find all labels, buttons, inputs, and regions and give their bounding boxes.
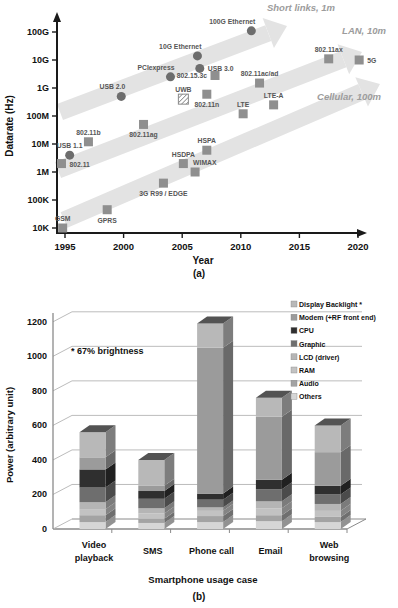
y-tick-label: 200 [32, 489, 47, 499]
bar-segment-phone-call-others [197, 522, 223, 529]
legend-item-audio: Audio [291, 380, 319, 387]
legend-label: Others [299, 393, 322, 400]
bar-segment-phone-call-lcd-driver- [197, 507, 223, 510]
point-label: PCIexpress [137, 64, 174, 72]
bar-segment-email-lcd-driver- [256, 501, 282, 508]
y-tick-label: 1200 [27, 317, 47, 327]
category-label: Web [320, 540, 339, 550]
bar-segment-phone-call-audio [197, 516, 223, 522]
bar-segment-sms-display-backlight [138, 460, 164, 486]
x-axis-title: Smartphone usage case [148, 574, 257, 585]
point-label: 802.11b [76, 129, 101, 136]
legend-swatch [291, 301, 297, 307]
bar-segment-email-graphic [256, 489, 282, 501]
point-label: 3G R99 / EDGE [139, 190, 188, 197]
bar-segment-web-browsing-ram [315, 511, 341, 517]
legend-label: Display Backlight * [299, 301, 362, 309]
x-tick-label: 2010 [230, 241, 251, 252]
x-tick-label: 2020 [347, 241, 368, 252]
bar-segment-web-browsing-others [315, 522, 341, 529]
y-tick-label: 1M [36, 167, 49, 177]
bar-segment-video-playback-graphic [80, 488, 106, 503]
bar-segment-phone-call-modem-rf-front-end- [197, 348, 223, 494]
point-usb-2-0 [117, 92, 126, 101]
bar-segment-web-browsing-audio [315, 517, 341, 522]
bar-segment-sms-graphic [138, 499, 164, 508]
bar-segment-email-modem-rf-front-end- [256, 417, 282, 480]
bar-segment-video-playback-audio [80, 515, 106, 522]
point-label: 802.15.3c [177, 72, 207, 79]
bar-segment-sms-ram [138, 513, 164, 518]
bar-segment-phone-call-ram [197, 511, 223, 516]
y-tick-label: 100M [26, 111, 49, 121]
category-label: Phone call [189, 546, 234, 556]
y-tick-label: 100G [27, 27, 49, 37]
legend-swatch [291, 380, 297, 386]
point-wimax [191, 168, 200, 177]
point-label: LTE [237, 101, 250, 108]
legend-swatch [291, 367, 297, 373]
point-pciexpress [166, 72, 175, 81]
trend-band-label: Cellular, 100m [317, 91, 381, 102]
bar-segment-web-browsing-cpu [315, 486, 341, 495]
point-uwb [178, 94, 188, 104]
bar-segment-web-browsing-display-backlight [315, 425, 341, 452]
y-tick-label: 10K [32, 223, 49, 233]
point-100g-ethernet [247, 26, 256, 35]
legend-label: CPU [299, 327, 314, 334]
legend-label: LCD (driver) [299, 354, 339, 362]
bar-segment-email-audio [256, 515, 282, 521]
point-802-11ac-ad [255, 79, 264, 88]
legend-swatch [291, 327, 297, 333]
point-802-11 [57, 159, 66, 168]
y-axis-title: Datarate (Hz) [4, 95, 15, 157]
point-5g [355, 56, 364, 65]
bar-segment-email-others [256, 521, 282, 529]
legend-swatch [291, 393, 297, 399]
y-tick-label: 1000 [27, 351, 47, 361]
trend-band-label: LAN, 10m [342, 25, 386, 36]
y-axis-arrowhead [53, 12, 61, 22]
point-label: 802.11ax [315, 46, 343, 53]
bar-segment-video-playback-modem-rf-front-end- [80, 457, 106, 469]
brightness-annotation: * 67% brightness [71, 346, 144, 356]
point-label: GSM [55, 215, 71, 222]
bar-segment-sms-lcd-driver- [138, 508, 164, 513]
bar-segment-video-playback-ram [80, 509, 106, 515]
category-label: SMS [143, 546, 163, 556]
power-stacked-bar-chart: 020040060080010001200VideoplaybackSMSPho… [0, 285, 398, 608]
x-tick-label: 2015 [289, 241, 311, 252]
point-hsdpa [179, 159, 188, 168]
point-label: 10G Ethernet [159, 43, 202, 50]
legend-label: Audio [299, 380, 319, 387]
point-label: USB 2.0 [100, 83, 126, 90]
y-tick-label: 10G [32, 55, 49, 65]
bar-segment-sms-others [138, 523, 164, 529]
bar-segment-video-playback-others [80, 522, 106, 529]
legend-label: Modem (+RF front end) [299, 314, 376, 322]
bar-segment-phone-call-display-backlight [197, 324, 223, 348]
y-tick-label: 800 [32, 386, 47, 396]
point-802-11n [202, 90, 211, 99]
point-label: 802.11ag [129, 131, 157, 139]
datarate-scatter-chart: Short links, 1mLAN, 10mCellular, 100m 10… [0, 0, 398, 266]
x-tick-label: 2000 [113, 241, 134, 252]
bar-segment-email-display-backlight [256, 398, 282, 417]
legend-item-lcd-driver-: LCD (driver) [291, 354, 339, 362]
legend-item-display-backlight: Display Backlight * [291, 301, 362, 309]
legend-swatch [291, 341, 297, 347]
category-label: Email [258, 546, 282, 556]
point-hspa [202, 146, 211, 155]
two-panel-figure: Short links, 1mLAN, 10mCellular, 100m 10… [0, 0, 398, 608]
bar-segment-phone-call-cpu [197, 494, 223, 500]
point-label: 5G [367, 57, 376, 64]
point-label: UWB [175, 86, 191, 93]
legend-item-cpu: CPU [291, 327, 314, 334]
panel-b-caption: (b) [0, 591, 398, 602]
point-label: USB 1.1 [57, 142, 83, 149]
bar-segment-sms-cpu [138, 491, 164, 499]
point-label: LTE-A [264, 92, 284, 99]
point-label: WIMAX [193, 159, 217, 166]
y-tick-label: 10M [31, 139, 49, 149]
legend-item-graphic: Graphic [291, 341, 326, 349]
